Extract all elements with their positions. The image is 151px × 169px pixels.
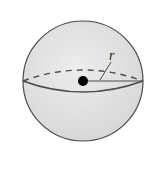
center-point (78, 76, 88, 86)
radius-label: r (109, 48, 115, 63)
sphere-diagram: r (0, 0, 151, 169)
